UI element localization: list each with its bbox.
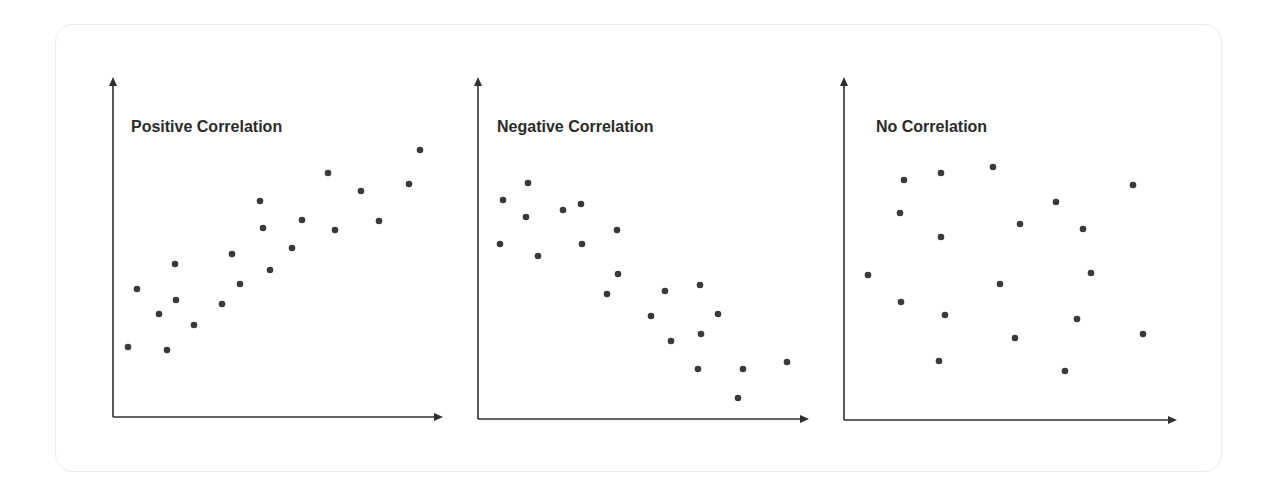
data-point [997, 281, 1004, 288]
data-point [535, 253, 542, 260]
data-point [289, 245, 296, 252]
data-point [990, 164, 997, 171]
data-point [897, 210, 904, 217]
data-point [901, 177, 908, 184]
data-point [497, 241, 504, 248]
data-point [1088, 270, 1095, 277]
data-point [1012, 335, 1019, 342]
data-point [406, 181, 413, 188]
data-point [173, 297, 180, 304]
data-point [898, 299, 905, 306]
data-point [376, 218, 383, 225]
data-point [578, 201, 585, 208]
data-point [668, 338, 675, 345]
data-point [500, 197, 507, 204]
x-axis-arrow-icon [1168, 416, 1177, 424]
data-point [938, 234, 945, 241]
y-axis-arrow-icon [840, 77, 848, 86]
no-correlation-title: No Correlation [876, 118, 987, 136]
data-point [1074, 316, 1081, 323]
data-point [172, 261, 179, 268]
data-point [560, 207, 567, 214]
data-point [784, 359, 791, 366]
data-point [1017, 221, 1024, 228]
x-axis-arrow-icon [434, 413, 443, 421]
data-point [648, 313, 655, 320]
data-point [1080, 226, 1087, 233]
data-point [229, 251, 236, 258]
data-point [865, 272, 872, 279]
data-point [134, 286, 141, 293]
data-point [938, 170, 945, 177]
data-point [260, 225, 267, 232]
data-point [695, 366, 702, 373]
data-point [615, 271, 622, 278]
data-point [579, 241, 586, 248]
data-point [697, 282, 704, 289]
data-point [267, 267, 274, 274]
data-point [740, 366, 747, 373]
data-point [715, 311, 722, 318]
y-axis-arrow-icon [109, 77, 117, 86]
data-point [942, 312, 949, 319]
y-axis-arrow-icon [474, 77, 482, 86]
positive-correlation-title: Positive Correlation [131, 118, 282, 136]
data-point [164, 347, 171, 354]
data-point [299, 217, 306, 224]
data-point [358, 188, 365, 195]
data-point [525, 180, 532, 187]
data-point [191, 322, 198, 329]
data-point [1062, 368, 1069, 375]
data-point [604, 291, 611, 298]
data-point [662, 288, 669, 295]
scatter-plots [0, 0, 1277, 492]
x-axis-arrow-icon [800, 415, 809, 423]
data-point [417, 147, 424, 154]
data-point [735, 395, 742, 402]
data-point [237, 281, 244, 288]
data-point [936, 358, 943, 365]
data-point [614, 227, 621, 234]
data-point [698, 331, 705, 338]
data-point [1130, 182, 1137, 189]
data-point [523, 214, 530, 221]
data-point [219, 301, 226, 308]
negative-correlation-title: Negative Correlation [497, 118, 653, 136]
data-point [1140, 331, 1147, 338]
data-point [125, 344, 132, 351]
data-point [257, 198, 264, 205]
data-point [325, 170, 332, 177]
data-point [156, 311, 163, 318]
data-point [1053, 199, 1060, 206]
data-point [332, 227, 339, 234]
